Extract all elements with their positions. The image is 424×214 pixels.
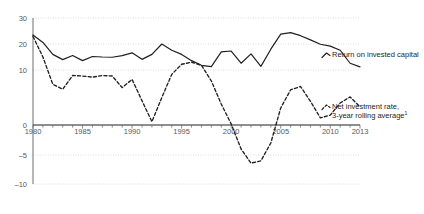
y-tick-label-20: 20 bbox=[19, 40, 27, 49]
legend-footnote-marker: 1 bbox=[405, 110, 408, 116]
x-tick-label-1990: 1990 bbox=[124, 127, 141, 136]
legend-marker-net-investment-rate bbox=[322, 105, 330, 110]
legend-marker-roic bbox=[322, 53, 330, 58]
x-axis-labels: 19801985199019952000200520102013 bbox=[25, 127, 369, 136]
y-tick-label--5: –5 bbox=[19, 151, 27, 160]
x-tick-label-2013: 2013 bbox=[352, 127, 369, 136]
x-tick-label-2010: 2010 bbox=[322, 127, 339, 136]
y-axis-labels: 3020100–5–10 bbox=[14, 14, 27, 189]
legend-label-net-investment-rate-line2: 3-year rolling average1 bbox=[332, 110, 408, 120]
line-chart: 3020100–5–101980198519901995200020052010… bbox=[0, 0, 424, 214]
x-tick-label-1985: 1985 bbox=[74, 127, 91, 136]
x-tick-label-1995: 1995 bbox=[173, 127, 190, 136]
x-tick-label-2000: 2000 bbox=[223, 127, 240, 136]
x-tick-label-1980: 1980 bbox=[25, 127, 42, 136]
y-tick-label-10: 10 bbox=[19, 66, 27, 75]
series-line-net-investment-rate bbox=[33, 36, 360, 163]
legend-label-net-investment-rate-line1: Net investment rate, bbox=[332, 102, 399, 111]
y-tick-label-30: 30 bbox=[19, 14, 27, 23]
series-line-roic bbox=[33, 33, 360, 67]
chart-container: 3020100–5–101980198519901995200020052010… bbox=[0, 0, 424, 214]
y-tick-label--10: –10 bbox=[14, 180, 27, 189]
legend-label-roic: Return on invested capital bbox=[332, 50, 419, 59]
